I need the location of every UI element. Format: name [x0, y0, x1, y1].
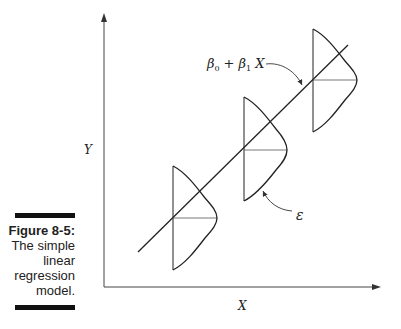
regression-equation-label: β0+β1X [206, 56, 302, 85]
x-axis-arrow-icon [372, 284, 381, 290]
error-distribution-1 [173, 166, 217, 270]
error-term-label: ε [263, 191, 304, 223]
error-pointer-arrow-icon [263, 191, 292, 211]
regression-diagram: Y X β0+β1X ε [0, 0, 401, 329]
error-distribution-3 [313, 29, 357, 132]
regression-line [138, 45, 348, 252]
y-axis [101, 13, 107, 287]
y-axis-arrow-icon [101, 13, 107, 22]
x-axis [104, 284, 381, 290]
svg-text:ε: ε [296, 207, 304, 223]
x-axis-label: X [237, 299, 247, 313]
svg-text:β0+β1X: β0+β1X [206, 56, 265, 73]
y-axis-label: Y [84, 143, 93, 157]
regression-pointer-arrow-icon [266, 64, 302, 85]
error-distribution-2 [244, 97, 287, 201]
